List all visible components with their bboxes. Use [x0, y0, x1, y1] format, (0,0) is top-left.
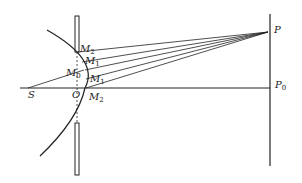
aperture-screen-top	[75, 16, 79, 52]
diagram-canvas: S O P P0 M2 M1 M0 M1 M2	[0, 0, 302, 183]
ray-M0-to-P	[85, 32, 268, 70]
label-S: S	[28, 90, 35, 100]
label-O: O	[72, 90, 80, 100]
ray-M1-bottom-to-P	[86, 32, 268, 79]
label-M1-bottom: M1	[90, 74, 105, 86]
label-P: P	[274, 25, 281, 35]
ray-M2-top-to-P	[78, 32, 268, 52]
label-M0: M0	[66, 68, 81, 80]
ray-M2-bottom-to-P	[86, 32, 268, 88]
label-M2-bottom: M2	[89, 92, 104, 104]
label-M1-top: M1	[85, 56, 100, 68]
ray-M1-top-to-P	[82, 32, 268, 62]
aperture-screen-bottom	[75, 123, 79, 175]
label-P0: P0	[275, 80, 286, 92]
diagram-svg	[0, 0, 302, 183]
